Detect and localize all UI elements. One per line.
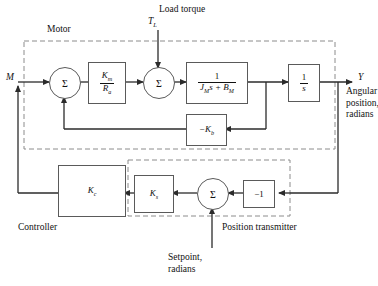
summing-junction-1: Σ [49,67,81,99]
controller-group-label: Controller [18,222,57,233]
motor-dynamics-block: 1 JMs + BM [186,62,248,104]
sensor-gain-block: Ks [134,175,174,213]
output-description: Angular position, radians [346,86,378,121]
gain-km-ra-denominator-sub: a [108,88,111,94]
setpoint-label: Setpoint, radians [168,252,202,275]
integrator-block: 1 s [288,64,320,102]
input-m-label: M [6,72,14,83]
sensor-gain-sub: s [156,194,158,200]
summing-junction-2-symbol: Σ [156,78,162,89]
gain-km-ra-block: Km Ra [88,62,126,104]
summing-junction-1-symbol: Σ [62,78,68,89]
gain-km-ra-numerator-sub: m [108,76,112,82]
position-transmitter-group-label: Position transmitter [222,222,297,233]
motor-dynamics-den-b-sub: M [229,87,234,93]
back-emf-gain-sub: b [211,130,214,136]
load-torque-label: Load torque [159,4,205,15]
inverter-gain-text: −1 [254,189,264,199]
output-description-line-2: position, [346,98,378,110]
output-y-label: Y [358,72,363,83]
controller-gain-block: Kc [58,165,126,217]
back-emf-gain-block: −Kb [186,114,227,146]
summing-junction-3: Σ [197,178,229,210]
motor-dynamics-numerator: 1 [198,72,236,81]
summing-junction-2: Σ [143,67,175,99]
output-description-line-1: Angular [346,86,378,98]
block-diagram: Σ Σ Σ Km Ra 1 JMs + BM 1 s −Kb Kc Ks −1 [0,0,378,286]
integrator-numerator: 1 [300,73,309,82]
inverter-gain-block: −1 [243,180,275,208]
load-torque-symbol-sub: L [153,21,157,28]
output-description-line-3: radians [346,109,378,121]
integrator-denominator: s [302,83,306,93]
summing-junction-3-symbol: Σ [210,189,216,200]
setpoint-label-line-1: Setpoint, [168,252,202,264]
controller-gain-sub: c [94,191,97,197]
motor-dynamics-den-mid: s + B [209,82,229,92]
load-torque-symbol: TL [148,16,157,30]
motor-group-label: Motor [47,24,71,35]
setpoint-label-line-2: radians [168,264,202,276]
back-emf-gain-text: −K [199,124,211,134]
